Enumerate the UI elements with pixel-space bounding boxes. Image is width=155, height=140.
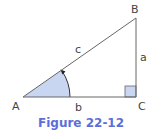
side-a-label: a	[140, 51, 147, 64]
angle-a-sector	[23, 70, 70, 97]
figure-caption: Figure 22-12	[38, 116, 124, 130]
side-c-hypotenuse	[23, 18, 136, 97]
right-angle-marker	[125, 86, 136, 97]
vertex-c-label: C	[138, 100, 146, 113]
vertex-b-label: B	[131, 3, 139, 16]
side-c-label: c	[75, 43, 81, 56]
side-b-label: b	[75, 101, 82, 114]
triangle-diagram: A B C c a b Figure 22-12	[0, 0, 155, 140]
vertex-a-label: A	[12, 100, 20, 113]
